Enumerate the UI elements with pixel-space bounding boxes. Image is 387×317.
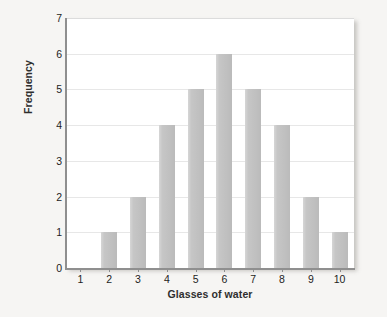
x-axis-tick-mark — [109, 269, 110, 272]
bar — [303, 197, 319, 268]
bar — [101, 232, 117, 268]
y-axis-tick-label: 7 — [44, 13, 62, 24]
x-axis-tick-label: 6 — [211, 274, 237, 285]
x-axis-tick-label: 7 — [240, 274, 266, 285]
y-axis-tick-label: 2 — [44, 191, 62, 202]
x-axis-tick-mark — [282, 269, 283, 272]
x-axis-tick-label: 2 — [96, 274, 122, 285]
bar — [159, 125, 175, 268]
y-axis-tick-label: 0 — [44, 263, 62, 274]
x-axis-tick-label: 10 — [327, 274, 353, 285]
y-axis-title: Frequency — [22, 42, 36, 132]
bar — [245, 89, 261, 268]
x-axis-tick-mark — [253, 269, 254, 272]
x-axis-tick-mark — [340, 269, 341, 272]
y-axis-tick-label: 6 — [44, 48, 62, 59]
x-axis-tick-mark — [311, 269, 312, 272]
y-axis-tick-label: 3 — [44, 156, 62, 167]
x-axis-tick-label: 5 — [183, 274, 209, 285]
x-axis-tick-label: 9 — [298, 274, 324, 285]
y-axis-tick-label: 1 — [44, 227, 62, 238]
x-axis-tick-label: 8 — [269, 274, 295, 285]
x-axis-tick-mark — [80, 269, 81, 272]
x-axis-tick-mark — [224, 269, 225, 272]
x-axis-tick-mark — [196, 269, 197, 272]
x-axis-tick-label: 3 — [125, 274, 151, 285]
x-axis-tick-mark — [167, 269, 168, 272]
bar — [332, 232, 348, 268]
bar — [274, 125, 290, 268]
y-axis-line — [65, 18, 67, 269]
x-axis-tick-label: 1 — [67, 274, 93, 285]
plot-area — [66, 18, 354, 268]
bar — [216, 54, 232, 268]
bar-series — [66, 18, 354, 268]
x-axis-tick-mark — [138, 269, 139, 272]
bar — [130, 197, 146, 268]
x-axis-title: Glasses of water — [66, 288, 354, 300]
y-axis-tick-labels: 01234567 — [44, 18, 62, 268]
x-axis-tick-label: 4 — [154, 274, 180, 285]
y-axis-tick-label: 5 — [44, 84, 62, 95]
y-axis-tick-label: 4 — [44, 120, 62, 131]
histogram-figure: Frequency 01234567 12345678910 Glasses o… — [0, 0, 387, 317]
bar — [188, 89, 204, 268]
